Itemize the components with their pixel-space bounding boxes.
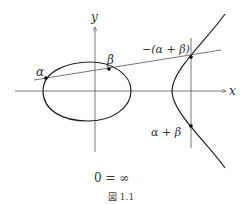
point-beta — [107, 67, 111, 71]
elliptic-curve-diagram: x y α β −(α + β) α + β 0 = ∞ 図 1.1 — [0, 0, 248, 204]
label-alpha: α — [36, 65, 44, 79]
x-axis-label: x — [229, 84, 236, 98]
label-sum: α + β — [151, 126, 181, 139]
label-neg-sum: −(α + β) — [142, 43, 190, 56]
infinity-note: 0 = ∞ — [94, 171, 129, 185]
figure-caption: 図 1.1 — [108, 192, 134, 202]
curve-oval — [43, 62, 131, 121]
label-beta: β — [106, 53, 114, 67]
secant-line — [34, 50, 221, 80]
y-axis-label: y — [90, 10, 98, 24]
point-sum — [189, 124, 193, 128]
point-alpha — [44, 76, 48, 80]
